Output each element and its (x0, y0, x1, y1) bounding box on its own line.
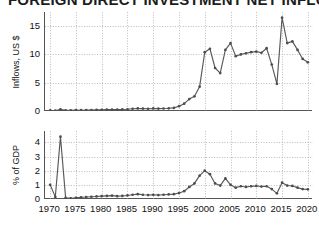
y-tick-label: 3 (18, 152, 40, 162)
y-tick-label: 4 (18, 137, 40, 147)
y-tick-label: 2 (18, 166, 40, 176)
plot-area-pct-gdp (44, 131, 312, 199)
figure-root: FOREIGN DIRECT INVESTMENT NET INFLOWS In… (0, 0, 319, 226)
y-tick-label: 1 (18, 180, 40, 190)
series-pct-gdp (45, 131, 313, 199)
x-tick-label: 2020 (290, 204, 319, 214)
y-tick-label: 0 (18, 194, 40, 204)
panel-pct-gdp: % of GDP 01234 (0, 0, 319, 226)
